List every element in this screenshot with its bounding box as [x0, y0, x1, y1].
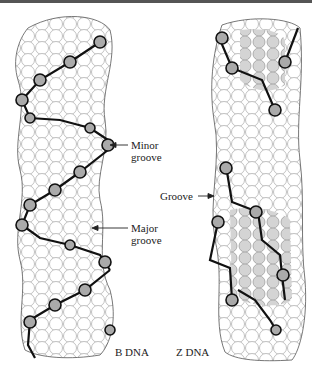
groove-label: Groove: [160, 190, 193, 202]
major-groove-label-line2: groove: [131, 234, 162, 246]
minor-groove-label-line2: groove: [131, 151, 162, 163]
dna-models-illustration: [0, 0, 312, 369]
b-dna-model: [16, 16, 115, 358]
b-dna-caption: B DNA: [115, 346, 149, 358]
z-dna-model: [210, 19, 306, 361]
minor-groove-label-line1: Minor: [131, 139, 162, 151]
major-groove-label-line1: Major: [131, 222, 162, 234]
minor-groove-label: Minor groove: [131, 139, 162, 163]
major-groove-label: Major groove: [131, 222, 162, 246]
z-dna-caption: Z DNA: [176, 346, 209, 358]
